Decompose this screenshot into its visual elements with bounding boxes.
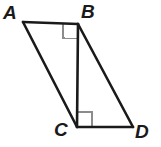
right-angle-marker-b	[63, 23, 78, 39]
segment-ab	[23, 22, 78, 24]
vertex-label-b: B	[81, 2, 95, 21]
right-angle-marker-c	[77, 112, 92, 127]
vertex-label-d: D	[135, 122, 149, 141]
vertex-label-c: C	[54, 120, 68, 139]
geometry-figure: A B C D	[0, 0, 161, 147]
segment-bc	[77, 24, 78, 127]
segment-ac	[23, 22, 77, 127]
vertex-label-a: A	[3, 3, 17, 22]
